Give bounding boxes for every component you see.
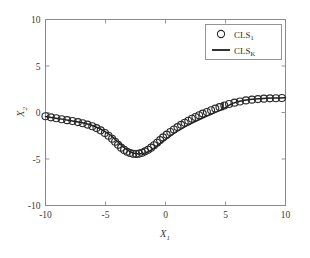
y-tick-label: 5 — [36, 62, 41, 72]
data-point-marker — [208, 107, 215, 114]
scatter-line-chart: -10-50510 -10-50510 CLS1 CLSK X1 X2 — [0, 0, 310, 258]
x-axis-title: X1 — [159, 228, 170, 242]
x-tick-labels: -10-50510 — [39, 210, 290, 220]
x-tick-label: -10 — [39, 210, 52, 220]
x-tick-label: 10 — [281, 210, 291, 220]
data-series-markers — [42, 94, 285, 157]
data-point-marker — [212, 105, 219, 112]
x-tick-label: 5 — [223, 210, 228, 220]
data-point-marker — [203, 108, 210, 115]
y-tick-label: 10 — [31, 15, 41, 25]
y-axis-title: X2 — [15, 107, 29, 118]
y-tick-label: -10 — [28, 201, 41, 211]
y-tick-label: -5 — [33, 155, 41, 165]
x-tick-label: -5 — [102, 210, 110, 220]
figure-container: -10-50510 -10-50510 CLS1 CLSK X1 X2 — [0, 0, 310, 258]
y-tick-label: 0 — [36, 108, 41, 118]
legend: CLS1 CLSK — [206, 25, 282, 60]
x-tick-label: 0 — [163, 210, 168, 220]
y-tick-labels: -10-50510 — [28, 15, 41, 211]
